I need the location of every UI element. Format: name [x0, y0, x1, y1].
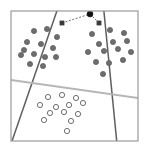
data-point-filled-circle: [38, 41, 43, 46]
support-vector-right: [97, 21, 101, 25]
support-vector-left: [60, 21, 64, 25]
data-point-filled-circle: [27, 61, 32, 66]
data-point-filled-circle: [100, 71, 105, 76]
data-point-filled-circle: [120, 57, 125, 62]
data-point-filled-circle: [106, 60, 111, 65]
scatter-plot-svg: [0, 0, 151, 154]
data-point-filled-circle: [21, 47, 26, 52]
data-point-filled-circle: [42, 54, 47, 59]
data-point-filled-circle: [18, 52, 23, 57]
data-point-filled-circle: [128, 49, 133, 54]
data-point-filled-circle: [24, 39, 29, 44]
data-point-filled-circle: [101, 48, 106, 53]
data-point-filled-circle: [44, 26, 49, 31]
data-point-filled-circle: [107, 27, 112, 32]
data-point-filled-circle: [50, 45, 55, 50]
data-point-filled-circle: [54, 34, 59, 39]
data-point-filled-circle: [31, 28, 36, 33]
data-point-filled-circle: [31, 51, 36, 56]
data-point-filled-circle: [89, 31, 94, 36]
data-point-filled-circle: [85, 49, 90, 54]
query-point: [87, 11, 93, 17]
data-point-filled-circle: [121, 30, 126, 35]
canvas-background: [0, 0, 151, 154]
data-point-filled-circle: [124, 38, 129, 43]
figure-container: [0, 0, 151, 154]
data-point-filled-circle: [110, 39, 115, 44]
data-point-filled-circle: [40, 63, 45, 68]
data-point-filled-circle: [93, 59, 98, 64]
data-point-filled-circle: [115, 46, 120, 51]
data-point-filled-circle: [53, 54, 58, 59]
data-point-filled-circle: [96, 41, 101, 46]
